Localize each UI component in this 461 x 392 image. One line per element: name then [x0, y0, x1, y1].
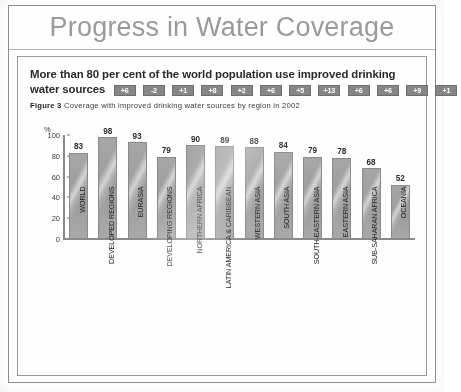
change-badge: +1: [435, 85, 457, 96]
bar-value-label: 68: [367, 158, 376, 167]
change-badge: +6: [114, 85, 136, 96]
bar-value-label: 89: [220, 136, 229, 145]
figure-label: Figure 3: [30, 101, 62, 110]
banner-title: Progress in Water Coverage: [50, 12, 395, 43]
change-badge: +2: [231, 85, 253, 96]
change-badge: -2: [143, 85, 165, 96]
figure-content-box: More than 80 per cent of the world popul…: [17, 56, 427, 376]
change-badge: +6: [260, 85, 282, 96]
figure-caption: Coverage with improved drinking water so…: [64, 101, 300, 110]
change-badge: +1: [172, 85, 194, 96]
bar-value-label: 93: [133, 132, 142, 141]
change-badge: +8: [201, 85, 223, 96]
y-axis-ticks: 020406080100: [26, 135, 60, 239]
category-label: OCEANIA: [386, 242, 415, 360]
bar-value-label: 90: [191, 135, 200, 144]
y-axis-tick-label: 80: [30, 151, 60, 160]
change-badge: +6: [377, 85, 399, 96]
bar-value-label: 88: [250, 137, 259, 146]
page-banner: Progress in Water Coverage: [9, 6, 435, 50]
bar-value-label: 79: [162, 146, 171, 155]
change-badge: +6: [348, 85, 370, 96]
bar-value-label: 79: [308, 146, 317, 155]
change-badge: +9: [406, 85, 428, 96]
plot-area: +6-2+1+8+2+6+5+13+6+6+9+1 83989379908988…: [64, 135, 415, 239]
bar-value-label: 83: [74, 142, 83, 151]
category-label-row: WORLDDEVELOPED REGIONSEURASIADEVELOPING …: [64, 242, 415, 362]
change-badge: +13: [318, 85, 340, 96]
y-axis-tick-label: 20: [30, 214, 60, 223]
bar-chart: % 020406080100 +6-2+1+8+2+6+5+13+6+6+9+1…: [18, 123, 426, 375]
bar-value-label: 52: [396, 174, 405, 183]
bar-value-label: 78: [337, 147, 346, 156]
change-badge: +5: [289, 85, 311, 96]
bar-value-label: 98: [103, 127, 112, 136]
category-label-text: OCEANIA: [400, 187, 409, 302]
y-axis-tick-label: 100: [30, 131, 60, 140]
y-axis-tick-label: 40: [30, 193, 60, 202]
figure-caption-line: Figure 3 Coverage with improved drinking…: [30, 101, 420, 110]
bar-value-label: 84: [279, 141, 288, 150]
y-axis-tick-label: 60: [30, 172, 60, 181]
change-badge-row: +6-2+1+8+2+6+5+13+6+6+9+1: [110, 85, 461, 98]
